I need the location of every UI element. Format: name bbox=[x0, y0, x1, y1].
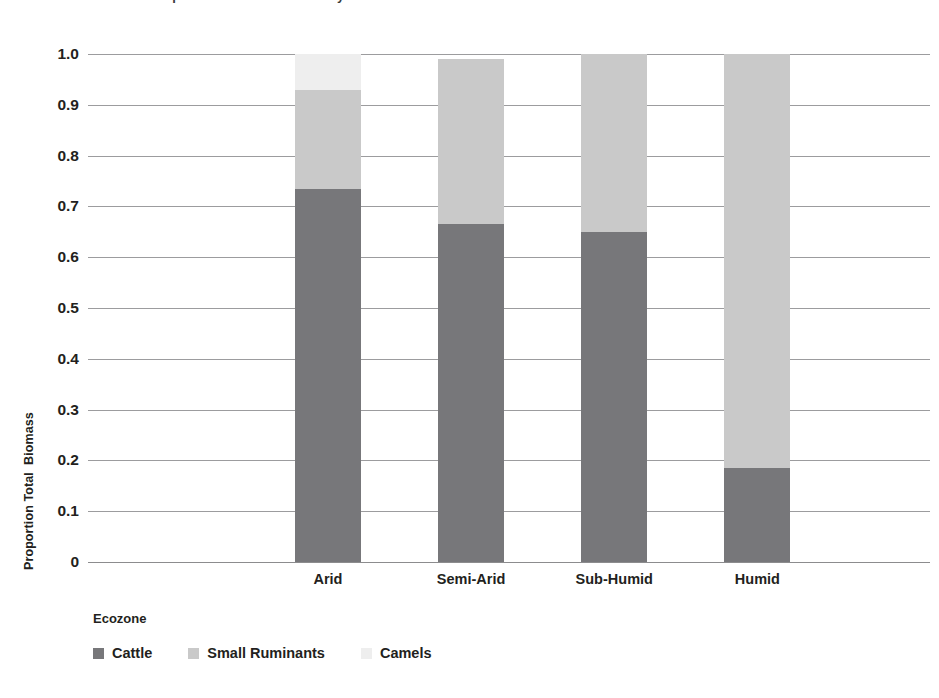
x-axis-tick-label: Arid bbox=[313, 571, 342, 587]
legend-item-camels[interactable]: Camels bbox=[361, 645, 432, 661]
gridline bbox=[88, 54, 930, 55]
y-axis-tick-label: 0 bbox=[70, 553, 79, 571]
legend-swatch-icon bbox=[93, 648, 104, 659]
bar-arid[interactable] bbox=[295, 54, 361, 562]
chart-legend: CattleSmall RuminantsCamels bbox=[93, 645, 468, 661]
bar-segment-small-ruminants[interactable] bbox=[581, 54, 647, 232]
clipped-chart-title: Proportion of total biomass by ecozone bbox=[150, 0, 750, 4]
bar-segment-cattle[interactable] bbox=[581, 232, 647, 562]
y-axis-tick-label: 0.5 bbox=[57, 299, 79, 317]
y-axis-title: Proportion Total Biomass bbox=[22, 340, 36, 570]
bar-segment-cattle[interactable] bbox=[295, 189, 361, 562]
bar-segment-small-ruminants[interactable] bbox=[295, 90, 361, 189]
plot-area: 1.00.90.80.70.60.50.40.30.20.10AridSemi-… bbox=[88, 54, 930, 562]
x-axis-tick-label: Sub-Humid bbox=[576, 571, 653, 587]
gridline bbox=[88, 308, 930, 309]
stacked-bar-chart: Proportion of total biomass by ecozone P… bbox=[0, 0, 939, 698]
legend-swatch-icon bbox=[188, 648, 199, 659]
bar-segment-small-ruminants[interactable] bbox=[724, 54, 790, 468]
bar-sub-humid[interactable] bbox=[581, 54, 647, 562]
y-axis-tick-label: 0.8 bbox=[57, 147, 79, 165]
y-axis-tick-label: 0.9 bbox=[57, 96, 79, 114]
gridline bbox=[88, 156, 930, 157]
gridline bbox=[88, 206, 930, 207]
y-axis-tick-label: 0.4 bbox=[57, 350, 79, 368]
y-axis-tick-label: 0.3 bbox=[57, 401, 79, 419]
legend-label: Small Ruminants bbox=[207, 645, 325, 661]
bar-segment-cattle[interactable] bbox=[724, 468, 790, 562]
x-axis-title: Ecozone bbox=[93, 611, 146, 626]
y-axis-tick-label: 0.2 bbox=[57, 451, 79, 469]
legend-item-cattle[interactable]: Cattle bbox=[93, 645, 152, 661]
gridline bbox=[88, 359, 930, 360]
bar-segment-small-ruminants[interactable] bbox=[438, 59, 504, 224]
x-axis-tick-label: Humid bbox=[735, 571, 780, 587]
bar-segment-cattle[interactable] bbox=[438, 224, 504, 562]
legend-label: Camels bbox=[380, 645, 432, 661]
legend-label: Cattle bbox=[112, 645, 152, 661]
x-axis-tick-label: Semi-Arid bbox=[437, 571, 506, 587]
gridline bbox=[88, 511, 930, 512]
axis-baseline bbox=[88, 562, 930, 563]
legend-item-small-ruminants[interactable]: Small Ruminants bbox=[188, 645, 325, 661]
gridline bbox=[88, 105, 930, 106]
bar-semi-arid[interactable] bbox=[438, 59, 504, 562]
gridline bbox=[88, 410, 930, 411]
y-axis-tick-label: 0.6 bbox=[57, 248, 79, 266]
y-axis-tick-label: 0.1 bbox=[57, 502, 79, 520]
gridline bbox=[88, 257, 930, 258]
bar-humid[interactable] bbox=[724, 54, 790, 562]
bar-segment-camels[interactable] bbox=[295, 54, 361, 90]
legend-swatch-icon bbox=[361, 648, 372, 659]
y-axis-tick-label: 0.7 bbox=[57, 197, 79, 215]
y-axis-tick-label: 1.0 bbox=[57, 45, 79, 63]
gridline bbox=[88, 460, 930, 461]
